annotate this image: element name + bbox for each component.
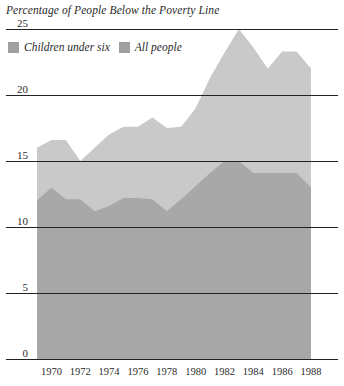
- poverty-line-area-chart: Percentage of People Below the Poverty L…: [0, 0, 344, 386]
- plot-area: [0, 0, 344, 386]
- y-axis-label-10: 10: [4, 215, 28, 227]
- y-axis-label-5: 5: [4, 281, 28, 293]
- y-axis-label-20: 20: [4, 83, 28, 95]
- x-axis-label-1988: 1988: [294, 366, 328, 377]
- y-axis-label-0: 0: [4, 347, 28, 359]
- y-axis-label-25: 25: [4, 17, 28, 29]
- y-axis-label-15: 15: [4, 149, 28, 161]
